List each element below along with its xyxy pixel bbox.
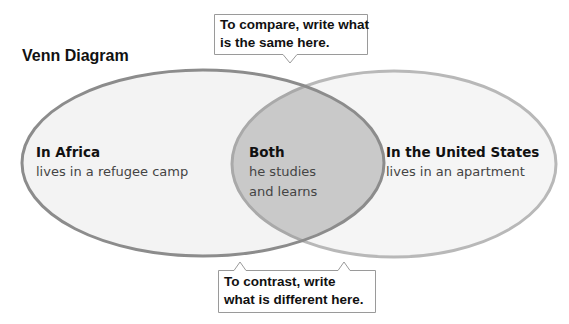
right-set-body: lives in an apartment (386, 162, 539, 182)
both-set-body-line2: and learns (249, 182, 317, 202)
left-set-heading: In Africa (36, 142, 188, 162)
page-title: Venn Diagram (22, 47, 129, 65)
left-set-body: lives in a refugee camp (36, 162, 188, 182)
contrast-callout-line2: what is different here. (224, 291, 364, 309)
left-set-label: In Africa lives in a refugee camp (36, 142, 188, 182)
contrast-callout-text: To contrast, write what is different her… (224, 273, 364, 309)
compare-callout-line2: is the same here. (220, 34, 369, 52)
contrast-callout-line1: To contrast, write (224, 273, 364, 291)
right-set-heading: In the United States (386, 142, 539, 162)
compare-callout-text: To compare, write what is the same here. (220, 16, 369, 52)
both-set-heading: Both (249, 142, 317, 162)
both-set-body-line1: he studies (249, 162, 317, 182)
both-set-label: Both he studies and learns (249, 142, 317, 202)
right-set-label: In the United States lives in an apartme… (386, 142, 539, 182)
compare-callout-line1: To compare, write what (220, 16, 369, 34)
